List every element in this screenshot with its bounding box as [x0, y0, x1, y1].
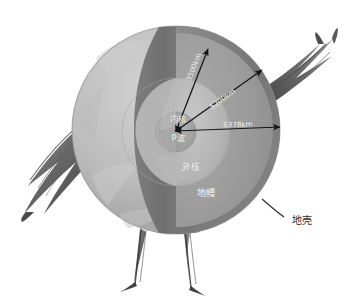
diagram-canvas: 3500km 5200km 6378km 内核 P波 外核 地幔 地壳: [0, 0, 352, 307]
layer-label-outer-core: 外核: [182, 161, 200, 172]
layer-label-crust: 地壳: [292, 214, 312, 226]
layer-label-mantle: 地幔: [197, 187, 215, 198]
layer-label-inner-core: 内核: [170, 114, 187, 124]
measurement-earth-radius: 6378km: [223, 119, 253, 129]
wave-label-p-wave: P波: [171, 133, 185, 143]
earth-structure-diagram: 3500km 5200km 6378km 内核 P波 外核 地幔 地壳: [0, 0, 352, 307]
